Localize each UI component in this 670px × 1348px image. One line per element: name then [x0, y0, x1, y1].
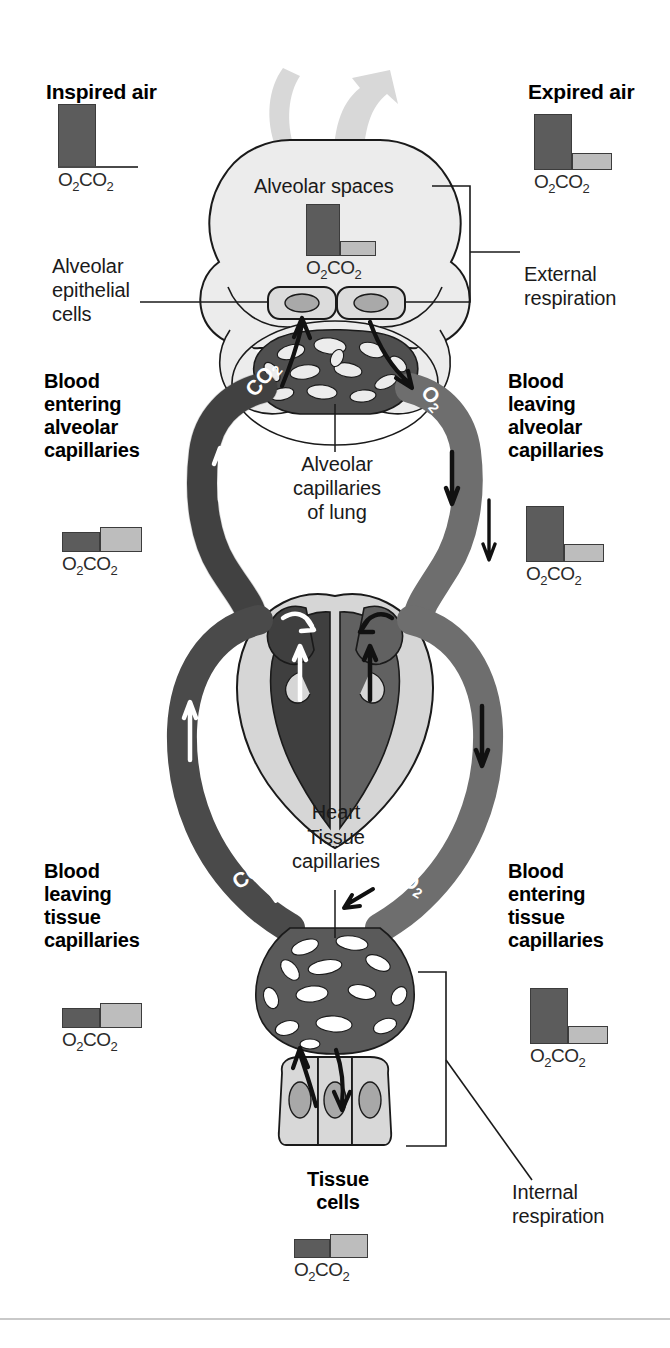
chart-inspired-air: O2CO2 — [58, 104, 144, 194]
acol-line3: of lung — [264, 500, 410, 524]
chart-axis-caption: O2CO2 — [62, 553, 148, 578]
label-blood-leaving-tissue-capillaries: Blood leaving tissue capillaries — [44, 860, 140, 952]
anatomy-illustration: CO2 O2 CO2 O2 — [0, 0, 670, 1348]
chart-axis-caption: O2CO2 — [294, 1259, 374, 1284]
beac-line1: Blood — [44, 370, 140, 393]
chart-axis-caption: O2CO2 — [306, 257, 386, 282]
tissue-cells-line1: Tissue — [258, 1168, 418, 1191]
betc-line3: tissue — [508, 906, 604, 929]
chart-blood-entering-tissue-capillaries: O2CO2 — [530, 988, 616, 1070]
gas-exchange-figure: CO2 O2 CO2 O2 Inspired air Expired air A… — [0, 0, 670, 1348]
bar-o2 — [294, 1239, 330, 1258]
betc-line1: Blood — [508, 860, 604, 883]
bar-co2 — [572, 153, 612, 170]
chart-blood-entering-alveolar-capillaries: O2CO2 — [62, 524, 148, 578]
label-heart: Heart — [278, 800, 394, 824]
chart-axis-caption: O2CO2 — [58, 169, 144, 194]
label-alveolar-epithelial-cells-line1: Alveolar — [52, 254, 130, 278]
bar-o2 — [58, 104, 96, 168]
bar-o2 — [62, 532, 100, 552]
bar-o2 — [526, 506, 564, 562]
tc-line2: capillaries — [262, 849, 410, 873]
beac-line4: capillaries — [44, 439, 140, 462]
label-internal-respiration: Internal respiration — [512, 1180, 604, 1228]
bar-co2 — [100, 1003, 142, 1028]
bar-co2 — [568, 1026, 608, 1044]
bar-o2 — [62, 1008, 100, 1028]
bltc-line3: tissue — [44, 906, 140, 929]
label-external-respiration-line2: respiration — [524, 286, 616, 310]
bar-o2 — [530, 988, 568, 1044]
bar-co2 — [100, 527, 142, 552]
page-bottom-rule — [0, 1318, 670, 1320]
label-alveolar-epithelial-cells: Alveolar epithelial cells — [52, 254, 130, 326]
bar-o2 — [534, 114, 572, 170]
bltc-line4: capillaries — [44, 929, 140, 952]
label-blood-leaving-alveolar-capillaries: Blood leaving alveolar capillaries — [508, 370, 604, 462]
bar-co2 — [564, 544, 604, 562]
label-alveolar-epithelial-cells-line2: epithelial — [52, 278, 130, 302]
chart-blood-leaving-tissue-capillaries: O2CO2 — [62, 1000, 148, 1054]
chart-baseline — [58, 166, 138, 168]
chart-blood-leaving-alveolar-capillaries: O2CO2 — [526, 506, 612, 588]
label-expired-air: Expired air — [528, 80, 634, 103]
o2-in-arrow-tissue — [344, 889, 373, 908]
label-tissue-capillaries: Tissue capillaries — [262, 825, 410, 873]
chart-axis-caption: O2CO2 — [62, 1029, 148, 1054]
label-alveolar-capillaries-of-lung: Alveolar capillaries of lung — [264, 452, 410, 524]
label-alveolar-spaces: Alveolar spaces — [254, 174, 394, 198]
label-blood-entering-alveolar-capillaries: Blood entering alveolar capillaries — [44, 370, 140, 462]
bltc-line2: leaving — [44, 883, 140, 906]
internal-respiration-line2: respiration — [512, 1204, 604, 1228]
alveolar-epithelial-cell-right — [337, 287, 405, 319]
tissue-capillary-network — [256, 928, 414, 1054]
chart-tissue-cells: O2CO2 — [294, 1232, 374, 1284]
bar-co2 — [330, 1234, 368, 1258]
tissue-cells — [279, 1057, 391, 1145]
label-tissue-cells: Tissue cells — [258, 1168, 418, 1214]
pulmonary-vein-oxygenated — [410, 388, 468, 618]
betc-line2: entering — [508, 883, 604, 906]
label-external-respiration-line1: External — [524, 262, 616, 286]
internal-respiration-line1: Internal — [512, 1180, 604, 1204]
acol-line2: capillaries — [264, 476, 410, 500]
alveolar-epithelial-cell-left — [268, 287, 336, 319]
bltc-line1: Blood — [44, 860, 140, 883]
label-inspired-air: Inspired air — [46, 80, 157, 103]
acol-line1: Alveolar — [264, 452, 410, 476]
label-external-respiration: External respiration — [524, 262, 616, 310]
blac-line2: leaving — [508, 393, 604, 416]
blac-line4: capillaries — [508, 439, 604, 462]
chart-axis-caption: O2CO2 — [534, 171, 620, 196]
blac-line1: Blood — [508, 370, 604, 393]
internal-respiration-bracket — [406, 972, 532, 1180]
bar-o2 — [306, 204, 340, 256]
chart-axis-caption: O2CO2 — [526, 563, 612, 588]
chart-axis-caption: O2CO2 — [530, 1045, 616, 1070]
label-blood-entering-tissue-capillaries: Blood entering tissue capillaries — [508, 860, 604, 952]
beac-line3: alveolar — [44, 416, 140, 439]
blac-line3: alveolar — [508, 416, 604, 439]
betc-line4: capillaries — [508, 929, 604, 952]
chart-expired-air: O2CO2 — [534, 114, 620, 196]
beac-line2: entering — [44, 393, 140, 416]
bar-co2 — [340, 241, 376, 256]
label-alveolar-epithelial-cells-line3: cells — [52, 302, 130, 326]
tc-line1: Tissue — [262, 825, 410, 849]
flow-arrow-descending — [483, 500, 495, 560]
pulmonary-artery-deoxygenated — [202, 388, 262, 618]
chart-alveolar-spaces: O2CO2 — [306, 204, 386, 282]
tissue-cells-line2: cells — [258, 1191, 418, 1214]
